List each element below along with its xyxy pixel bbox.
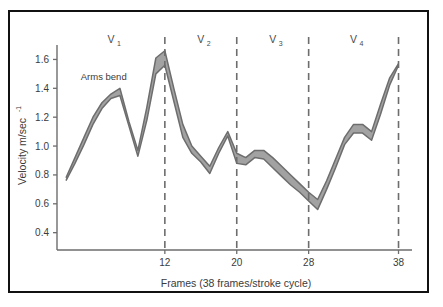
annotation-group: Arms bend (81, 71, 127, 82)
y-tick-label: 0.8 (35, 169, 49, 180)
phase-label: V (107, 33, 114, 45)
phase-label-subscript: 2 (207, 40, 211, 47)
x-tick-label: 12 (159, 257, 171, 268)
y-tick-label: 0.4 (35, 227, 49, 238)
chart-annotation: Arms bend (81, 71, 127, 82)
velocity-line-chart: 0.40.60.81.01.21.41.6 12202838 V1V2V3V4 … (0, 0, 443, 307)
y-tick-label: 0.6 (35, 198, 49, 209)
phase-divider-group (165, 37, 399, 250)
phase-label: V (269, 33, 276, 45)
y-tick-label: 1.2 (35, 112, 49, 123)
phase-label-subscript: 1 (117, 40, 121, 47)
y-tick-label: 1.4 (35, 83, 49, 94)
x-tick-group: 12202838 (159, 250, 404, 268)
y-tick-group: 0.40.60.81.01.21.41.6 (35, 54, 57, 238)
phase-label-group: V1V2V3V4 (107, 33, 363, 47)
phase-label-subscript: 3 (279, 40, 283, 47)
x-tick-label: 28 (303, 257, 315, 268)
y-axis-title-superscript: -1 (15, 106, 22, 112)
y-axis-title: Velocity m/sec -1 (15, 106, 28, 185)
phase-label: V (197, 33, 204, 45)
y-axis-title-text: Velocity m/sec (16, 118, 28, 185)
x-tick-label: 20 (231, 257, 243, 268)
phase-label-subscript: 4 (360, 40, 364, 47)
y-tick-label: 1.0 (35, 141, 49, 152)
x-tick-label: 38 (393, 257, 405, 268)
x-axis-title: Frames (38 frames/stroke cycle) (161, 277, 312, 289)
y-tick-label: 1.6 (35, 54, 49, 65)
phase-label: V (350, 33, 357, 45)
